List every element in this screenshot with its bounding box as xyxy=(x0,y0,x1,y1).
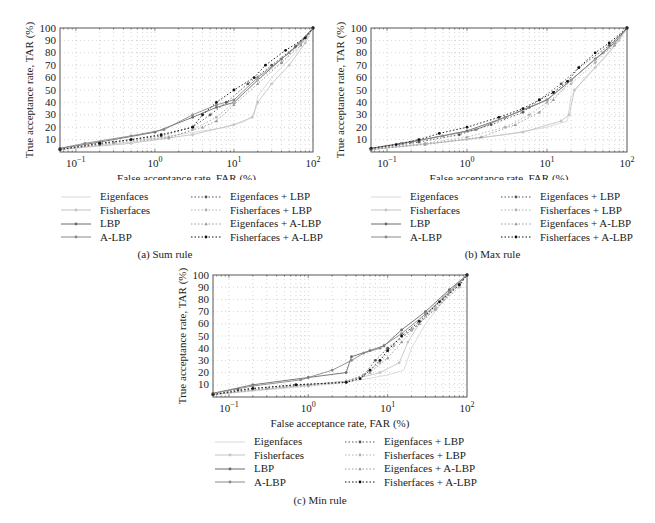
caption-min-rule: (c) Min rule xyxy=(150,494,490,506)
legend-item: Eigenfaces + LBP xyxy=(342,435,492,449)
legend-line-icon xyxy=(188,219,224,229)
y-tick-label: 20 xyxy=(198,366,210,378)
legend-label: Fisherfaces + LBP xyxy=(384,449,466,463)
y-tick-label: 90 xyxy=(45,34,57,46)
legend-line-icon xyxy=(58,219,94,229)
y-axis-label: True acceptance rate, TAR (%) xyxy=(23,22,36,159)
panel-max-rule: 10203040506070809010010−1100101102False … xyxy=(330,0,655,262)
legend-label: Eigenfaces xyxy=(100,190,148,204)
legend-label: A-LBP xyxy=(410,231,442,245)
legend-item: Fisherfaces + A-LBP xyxy=(188,231,338,245)
legend-item: Eigenfaces + A-LBP xyxy=(498,217,648,231)
grid xyxy=(213,275,467,397)
legend-line-icon xyxy=(368,232,404,242)
legend-label: A-LBP xyxy=(254,476,286,490)
y-tick-label: 30 xyxy=(356,108,368,120)
y-tick-label: 70 xyxy=(198,305,210,317)
y-tick-label: 40 xyxy=(356,96,368,108)
legend-line-icon xyxy=(188,205,224,215)
legend-item: Eigenfaces xyxy=(212,435,342,449)
chart-min-rule: 10203040506070809010010−1100101102False … xyxy=(150,265,490,430)
legend-line-icon xyxy=(212,477,248,487)
caption-sum-rule: (a) Sum rule xyxy=(0,248,330,260)
x-tick-label: 102 xyxy=(460,400,475,414)
legend-line-icon xyxy=(498,219,534,229)
y-tick-label: 10 xyxy=(45,133,57,145)
series-fisherfaces-a-lbp xyxy=(212,274,469,396)
series-eigenfaces-lbp xyxy=(212,274,469,396)
legend-label: Eigenfaces + LBP xyxy=(230,190,310,204)
legend-line-icon xyxy=(58,192,94,202)
series-fisherfaces-a-lbp xyxy=(370,27,629,150)
legend-line-icon xyxy=(342,464,378,474)
series-fisherfaces xyxy=(212,274,469,396)
series-lbp xyxy=(370,27,629,150)
panel-min-rule: 10203040506070809010010−1100101102False … xyxy=(150,265,490,523)
legend-line-icon xyxy=(498,232,534,242)
legend-line-icon xyxy=(188,192,224,202)
legend-label: A-LBP xyxy=(100,231,132,245)
y-tick-label: 100 xyxy=(193,269,210,281)
y-tick-label: 40 xyxy=(198,342,210,354)
series-eigenfaces xyxy=(60,28,313,150)
x-tick-label: 101 xyxy=(380,400,395,414)
y-tick-label: 80 xyxy=(45,46,57,58)
y-tick-label: 80 xyxy=(356,46,368,58)
legend-label: LBP xyxy=(410,217,430,231)
legend-line-icon xyxy=(58,205,94,215)
y-tick-label: 40 xyxy=(45,96,57,108)
y-tick-label: 90 xyxy=(198,281,210,293)
legend-label: Eigenfaces + A-LBP xyxy=(540,217,631,231)
y-tick-label: 10 xyxy=(198,378,210,390)
caption-max-rule: (b) Max rule xyxy=(330,248,655,260)
y-tick-label: 80 xyxy=(198,293,210,305)
legend-line-icon xyxy=(212,450,248,460)
legend-label: Eigenfaces + LBP xyxy=(384,435,464,449)
x-tick-label: 100 xyxy=(147,155,162,169)
legend-line-icon xyxy=(342,477,378,487)
series-eigenfaces-a-lbp xyxy=(211,273,468,396)
x-tick-label: 10−1 xyxy=(377,155,397,169)
y-axis-label: True acceptance rate, TAR (%) xyxy=(176,268,189,405)
legend-label: Eigenfaces xyxy=(254,435,302,449)
legend-label: Fisherfaces + A-LBP xyxy=(540,231,633,245)
legend-line-icon xyxy=(212,437,248,447)
legend-item: Fisherfaces + A-LBP xyxy=(498,231,648,245)
legend-label: Fisherfaces xyxy=(100,204,150,218)
y-tick-label: 60 xyxy=(45,71,57,83)
grid xyxy=(371,28,627,152)
panel-sum-rule: 10203040506070809010010−1100101102False … xyxy=(0,0,330,262)
series-eigenfaces-a-lbp xyxy=(369,26,628,151)
x-tick-label: 101 xyxy=(540,155,555,169)
x-axis-label: False acceptance rate, FAR (%) xyxy=(117,172,256,180)
legend-label: Fisherfaces + LBP xyxy=(540,204,622,218)
y-tick-label: 30 xyxy=(198,354,210,366)
series-a-lbp xyxy=(212,274,469,395)
legend-max-rule: EigenfacesFisherfacesLBPA-LBPEigenfaces … xyxy=(368,190,628,244)
legend-line-icon xyxy=(342,437,378,447)
legend-sum-rule: EigenfacesFisherfacesLBPA-LBPEigenfaces … xyxy=(58,190,318,244)
y-axis-label: True acceptance rate, TAR (%) xyxy=(334,22,347,159)
series-lbp xyxy=(212,274,469,395)
legend-line-icon xyxy=(342,450,378,460)
y-tick-label: 60 xyxy=(356,71,368,83)
legend-item: Eigenfaces + LBP xyxy=(498,190,648,204)
legend-item: Eigenfaces + A-LBP xyxy=(188,217,338,231)
legend-min-rule: EigenfacesFisherfacesLBPA-LBPEigenfaces … xyxy=(212,435,472,489)
series-fisherfaces-lbp xyxy=(212,274,469,396)
legend-label: Fisherfaces xyxy=(254,449,304,463)
legend-line-icon xyxy=(498,205,534,215)
y-tick-label: 50 xyxy=(356,84,368,96)
legend-line-icon xyxy=(188,232,224,242)
x-axis-label: False acceptance rate, FAR (%) xyxy=(271,417,410,430)
series-eigenfaces-lbp xyxy=(370,27,629,151)
legend-label: Fisherfaces + LBP xyxy=(230,204,312,218)
y-tick-label: 70 xyxy=(45,59,57,71)
series-fisherfaces xyxy=(59,27,315,151)
legend-item: LBP xyxy=(368,217,498,231)
series-lbp xyxy=(59,27,315,150)
y-tick-label: 20 xyxy=(356,121,368,133)
legend-item: Fisherfaces xyxy=(368,204,498,218)
legend-label: Eigenfaces + A-LBP xyxy=(230,217,321,231)
series-a-lbp xyxy=(59,27,315,150)
